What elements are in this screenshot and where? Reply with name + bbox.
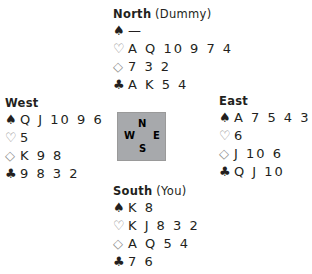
heart-icon: ♡ <box>219 127 234 145</box>
west-clubs: 9 8 3 2 <box>20 166 79 181</box>
east-clubs: Q J 10 <box>234 164 285 179</box>
east-spades-row: ♠A 7 5 4 3 2 <box>219 109 312 127</box>
north-diamonds: 7 3 2 <box>128 59 171 74</box>
compass-east: E <box>153 130 160 141</box>
compass-west: W <box>124 130 135 141</box>
south-clubs: 7 6 <box>128 254 155 269</box>
south-spades-row: ♠K 8 <box>113 199 200 217</box>
north-label: North <box>113 7 151 21</box>
north-title: North (Dummy) <box>113 6 233 22</box>
south-diamonds: A Q 5 4 <box>128 236 190 251</box>
west-spades-row: ♠Q J 10 9 6 <box>5 111 104 129</box>
heart-icon: ♡ <box>5 129 20 147</box>
east-spades: A 7 5 4 3 2 <box>234 110 312 125</box>
south-hearts: K J 8 3 2 <box>128 218 200 233</box>
spade-icon: ♠ <box>113 22 128 40</box>
south-title: South (You) <box>113 183 200 199</box>
compass-north: N <box>138 118 146 129</box>
east-hearts-row: ♡6 <box>219 127 312 145</box>
east-clubs-row: ♣Q J 10 <box>219 163 312 181</box>
north-spades: — <box>128 23 143 38</box>
spade-icon: ♠ <box>5 111 20 129</box>
spade-icon: ♠ <box>219 109 234 127</box>
diamond-icon: ◇ <box>113 58 128 76</box>
south-diamonds-row: ◇A Q 5 4 <box>113 235 200 253</box>
east-label: East <box>219 94 248 108</box>
west-diamonds: K 9 8 <box>20 148 63 163</box>
diamond-icon: ◇ <box>113 235 128 253</box>
heart-icon: ♡ <box>113 40 128 58</box>
club-icon: ♣ <box>113 253 128 271</box>
club-icon: ♣ <box>113 76 128 94</box>
south-spades: K 8 <box>128 200 155 215</box>
south-label: South <box>113 184 153 198</box>
north-clubs: A K 5 4 <box>128 77 188 92</box>
north-role: (Dummy) <box>155 7 211 21</box>
east-diamonds: J 10 6 <box>234 146 283 161</box>
west-hearts: 5 <box>20 130 30 145</box>
heart-icon: ♡ <box>113 217 128 235</box>
north-diamonds-row: ◇7 3 2 <box>113 58 233 76</box>
north-hearts-row: ♡A Q 10 9 7 4 <box>113 40 233 58</box>
south-hearts-row: ♡K J 8 3 2 <box>113 217 200 235</box>
west-clubs-row: ♣9 8 3 2 <box>5 165 104 183</box>
west-spades: Q J 10 9 6 <box>20 112 104 127</box>
south-clubs-row: ♣7 6 <box>113 253 200 271</box>
north-spades-row: ♠— <box>113 22 233 40</box>
compass-box: N W E S <box>117 112 166 161</box>
west-hand: West ♠Q J 10 9 6 ♡5 ◇K 9 8 ♣9 8 3 2 <box>5 95 104 183</box>
north-clubs-row: ♣A K 5 4 <box>113 76 233 94</box>
east-diamonds-row: ◇J 10 6 <box>219 145 312 163</box>
west-hearts-row: ♡5 <box>5 129 104 147</box>
west-label: West <box>5 96 39 110</box>
east-hearts: 6 <box>234 128 244 143</box>
spade-icon: ♠ <box>113 199 128 217</box>
south-hand: South (You) ♠K 8 ♡K J 8 3 2 ◇A Q 5 4 ♣7 … <box>113 183 200 271</box>
compass-south: S <box>139 143 146 154</box>
diamond-icon: ◇ <box>5 147 20 165</box>
east-title: East <box>219 93 312 109</box>
club-icon: ♣ <box>5 165 20 183</box>
north-hand: North (Dummy) ♠— ♡A Q 10 9 7 4 ◇7 3 2 ♣A… <box>113 6 233 94</box>
east-hand: East ♠A 7 5 4 3 2 ♡6 ◇J 10 6 ♣Q J 10 <box>219 93 312 181</box>
north-hearts: A Q 10 9 7 4 <box>128 41 233 56</box>
south-role: (You) <box>156 184 186 198</box>
west-diamonds-row: ◇K 9 8 <box>5 147 104 165</box>
diamond-icon: ◇ <box>219 145 234 163</box>
west-title: West <box>5 95 104 111</box>
club-icon: ♣ <box>219 163 234 181</box>
